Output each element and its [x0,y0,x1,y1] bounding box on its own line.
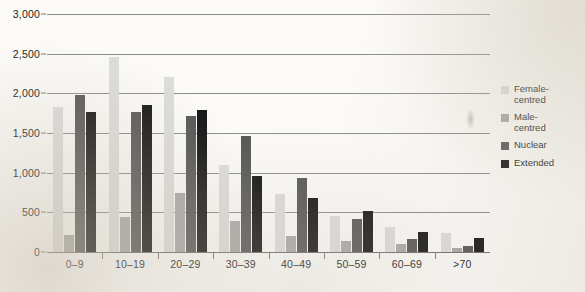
legend-item: Extended [501,158,583,169]
bar [219,165,229,252]
bar [75,95,85,252]
bar [286,236,296,252]
bar-group [379,14,434,252]
bar [230,221,240,252]
y-axis-tick-label: 500 [22,206,40,218]
x-axis-tick-label: 50–59 [324,258,379,274]
y-axis-tick-label: 2,000 [13,87,40,99]
bar [142,105,152,252]
legend-item-label: Nuclear [514,140,547,151]
y-axis-tick-label: 2,500 [13,48,40,60]
paper-smudge [466,108,475,130]
x-axis-tick-mark [269,253,270,259]
y-axis-tick-mark [41,93,46,94]
bar [197,110,207,252]
bar [474,238,484,252]
bar-chart: 05001,0001,5002,0002,5003,000 0–910–1920… [0,0,585,292]
bar-group [324,14,379,252]
bar [407,239,417,252]
bar [385,227,395,252]
bar-group [269,14,324,252]
y-axis-tick-mark [41,172,46,173]
bar [241,136,251,252]
y-axis-tick-label: 1,500 [13,127,40,139]
y-axis-tick-label: 0 [34,246,40,258]
y-axis-tick-mark [41,14,46,15]
x-axis-tick-label: 30–39 [213,258,268,274]
bar [109,57,119,252]
bar [275,194,285,252]
x-axis-tick-mark [158,253,159,259]
x-axis-tick-label: 20–29 [158,258,213,274]
x-axis-tick-labels: 0–910–1920–2930–3940–4950–5960–69>70 [47,258,490,274]
bar [175,193,185,253]
x-axis-tick-label: 60–69 [379,258,434,274]
bar [418,232,428,252]
bar-group [47,14,102,252]
x-axis-tick-mark [213,253,214,259]
y-axis-tick-mark [41,252,46,253]
legend-item: Nuclear [501,140,583,151]
bar [352,219,362,252]
x-axis-tick-label: 10–19 [102,258,157,274]
plot-area: 05001,0001,5002,0002,5003,000 [47,14,490,252]
legend-item: Female- centred [501,84,583,105]
y-axis-tick-label: 1,000 [13,167,40,179]
bar [308,198,318,252]
bar-group [102,14,157,252]
bar [53,107,63,252]
bar [363,211,373,252]
bar [64,235,74,252]
x-axis-tick-label: 0–9 [47,258,102,274]
legend-item-label: Male- centred [514,112,546,133]
bar-group [213,14,268,252]
bar [341,241,351,252]
y-axis-tick-label: 3,000 [13,8,40,20]
bar [131,112,141,252]
bar-group [158,14,213,252]
legend-item: Male- centred [501,112,583,133]
y-axis-tick-mark [41,212,46,213]
chart-legend: Female- centredMale- centredNuclearExten… [501,84,583,175]
legend-color-swatch [501,114,509,122]
legend-color-swatch [501,86,509,94]
legend-color-swatch [501,160,509,168]
bar [297,178,307,252]
bar [441,233,451,252]
bar [86,112,96,252]
bar [330,216,340,252]
legend-color-swatch [501,142,509,150]
x-axis-tick-mark [435,253,436,259]
bar [252,176,262,252]
legend-item-label: Extended [514,158,554,169]
bar [164,77,174,252]
bar [396,244,406,252]
legend-item-label: Female- centred [514,84,549,105]
y-axis-tick-mark [41,53,46,54]
bar [452,248,462,252]
x-axis-tick-label: 40–49 [269,258,324,274]
bar-groups [47,14,490,252]
y-axis-tick-mark [41,133,46,134]
bar [463,246,473,252]
bar [120,217,130,252]
x-axis-tick-mark [324,253,325,259]
x-axis-tick-label: >70 [435,258,490,274]
x-axis-tick-mark [379,253,380,259]
bar-group [435,14,490,252]
x-axis-tick-mark [102,253,103,259]
bar [186,116,196,252]
